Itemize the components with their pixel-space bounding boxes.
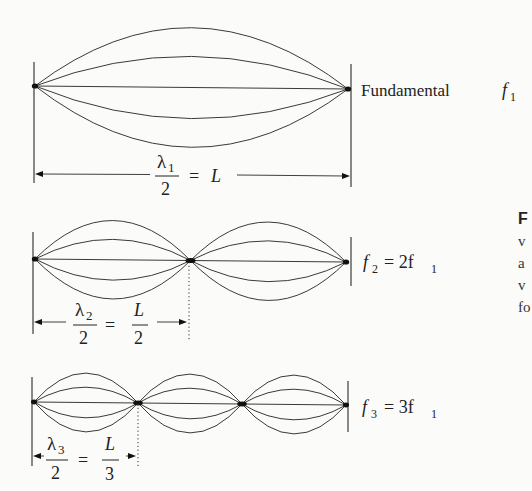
freq-relation: = 2f [384,252,414,272]
length-arrow-left [38,174,150,175]
mode-2-second-harmonic: λ 2 2 = L 2 f 2 = 2f 1 [32,221,437,348]
caption-line-2: v [518,233,526,249]
string-curve [35,56,348,89]
string-curve [242,404,346,420]
string-curve [191,241,347,262]
string-curve [35,86,348,147]
rhs-denominator: 3 [105,464,114,484]
mode-3-third-harmonic: λ 3 2 = L 3 f 3 = 3f 1 [31,373,437,484]
node-point [237,402,247,407]
node-point [32,83,38,88]
string-curve [191,222,347,262]
arrowhead-right [179,319,187,325]
freq-subscript: 1 [510,90,516,104]
arrowhead-right [128,453,136,459]
arrowhead-left [33,453,41,459]
string-curve [242,375,346,405]
standing-wave-diagram: λ 1 2 = L Fundamental f 1 λ 2 2 = L [0,0,532,491]
wavelength-label-3: λ 3 2 = L 3 [46,433,119,484]
wavelength-label-1: λ 1 2 = L [155,151,221,199]
caption-line-4: v [518,277,526,293]
denominator: 2 [51,463,60,483]
arrowhead-right [342,173,350,179]
string-curve [35,221,191,261]
freq-relation-subscript: 1 [431,262,437,276]
frequency-label-3: f 3 = 3f 1 [362,397,437,421]
arrowhead-left [34,319,42,325]
string-curve [242,404,346,434]
string-curve [35,86,348,119]
node-point [32,256,38,261]
equals-sign: = [105,315,115,335]
freq-subscript: 3 [371,407,377,421]
string-curve [138,403,242,419]
node-point [31,400,37,405]
frequency-label-2: f 2 = 2f 1 [363,252,437,276]
string-curve [138,374,242,404]
string-curve [34,402,138,432]
length-symbol: L [104,434,115,454]
string-curve [35,259,191,299]
string-curve [191,261,347,301]
string-curve [35,239,191,260]
string-curve [138,403,242,433]
string-envelope [31,373,349,434]
caption-line-1: F [518,210,528,227]
rhs-denominator: 2 [134,328,143,348]
freq-symbol: f [363,252,371,272]
string-curve [34,402,138,418]
string-curve [34,387,138,403]
mode-1-fundamental: λ 1 2 = L Fundamental f 1 [32,28,516,199]
equals-sign: = [189,166,199,186]
freq-relation: = 3f [384,397,414,417]
freq-subscript: 2 [372,262,378,276]
lambda-subscript: 1 [168,160,175,175]
caption-line-5: fo [518,299,531,315]
string-curve [242,389,346,405]
node-point [186,258,196,263]
string-curve [34,402,138,403]
caption-line-3: a [518,255,525,271]
freq-symbol: f [362,397,370,417]
string-curve [35,259,191,280]
string-curve [191,261,347,282]
string-curve [138,403,242,404]
lambda-subscript: 3 [58,442,65,457]
lambda-symbol: λ [47,433,57,454]
wavelength-label-2: λ 2 2 = L 2 [73,299,148,348]
string-curve [191,261,347,263]
string-curve [138,388,242,404]
string-envelope [32,28,351,148]
lambda-subscript: 2 [86,308,93,323]
lambda-symbol: λ [157,151,167,172]
node-point [343,259,349,264]
frequency-label-1: Fundamental f 1 [361,80,516,104]
fundamental-label: Fundamental [361,81,450,100]
denominator: 2 [161,179,170,199]
length-symbol: L [133,300,144,320]
string-curve [242,404,346,405]
arrowhead-left [35,171,43,177]
node-point [343,403,349,408]
length-arrow-right [237,175,346,176]
string-curve [35,28,348,89]
string-envelope [32,221,349,301]
lambda-symbol: λ [75,299,85,320]
node-point [345,86,351,91]
freq-symbol: f [502,80,510,100]
figure-caption-fragment: F v a v fo [518,210,531,315]
string-curve [35,86,348,89]
string-curve [34,373,138,403]
equals-sign: = [78,450,88,470]
freq-relation-subscript: 1 [431,407,437,421]
string-curve [35,259,191,261]
denominator: 2 [79,328,88,348]
length-symbol: L [210,166,221,186]
